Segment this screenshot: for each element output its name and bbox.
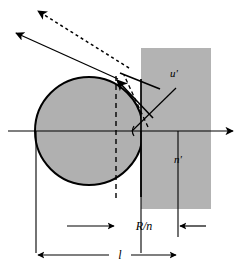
outgoing-solid-ray [16, 33, 118, 79]
ray-diagram-canvas: R/n l u' n' [0, 0, 243, 273]
label-u-prime: u' [170, 67, 179, 79]
label-r-over-n: R/n [135, 219, 153, 233]
label-n-prime: n' [174, 153, 183, 165]
optics-figure: R/n l u' n' [0, 0, 243, 273]
label-l: l [118, 248, 122, 262]
dashed-construction-ray [38, 11, 129, 68]
